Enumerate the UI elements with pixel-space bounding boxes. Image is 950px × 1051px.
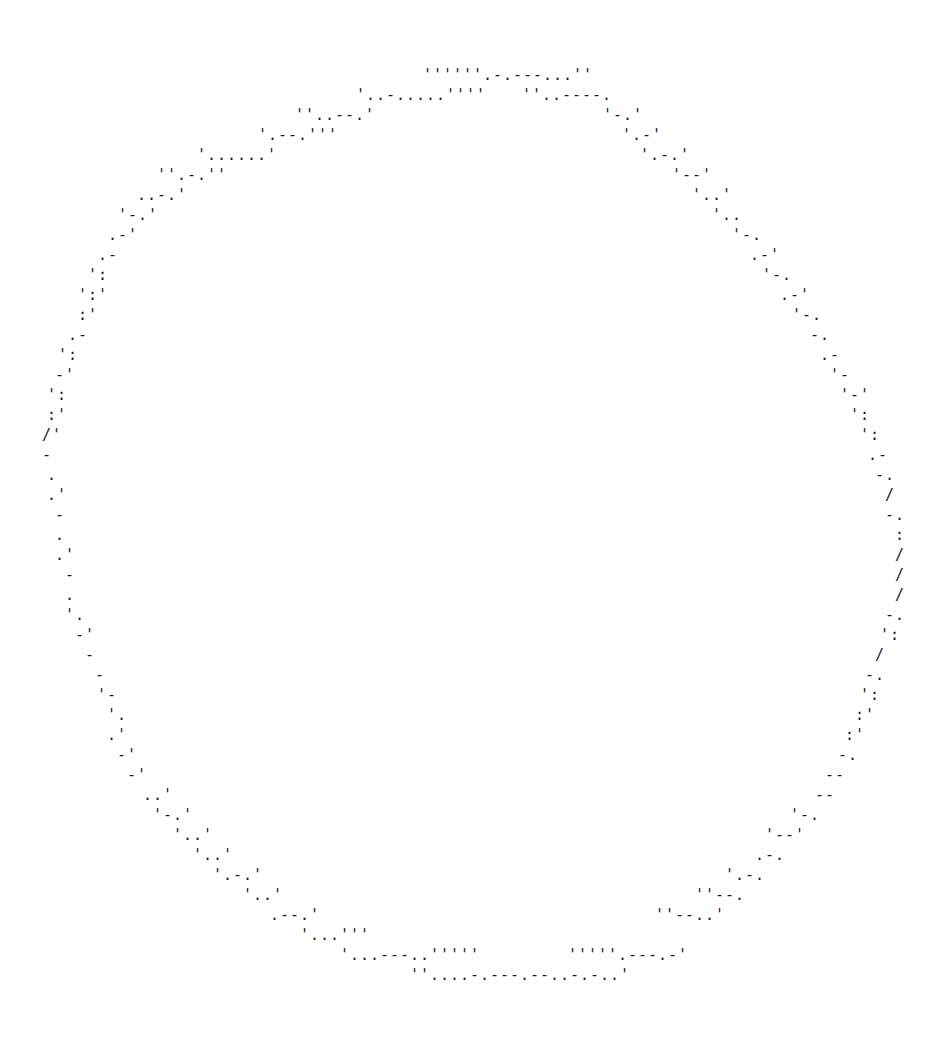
- ascii-fragment: '.-.': [213, 866, 263, 884]
- ascii-fragment: '--': [765, 826, 805, 844]
- ascii-fragment: '..': [173, 826, 213, 844]
- ascii-fragment: .': [107, 726, 127, 744]
- ascii-fragment: '..': [193, 846, 233, 864]
- ascii-fragment: '..: [712, 206, 742, 224]
- ascii-fragment: ''..----.: [522, 86, 612, 104]
- ascii-fragment: ''....-.---.--..-.-..': [410, 966, 630, 984]
- ascii-fragment: '.: [65, 606, 85, 624]
- ascii-fragment: -: [85, 646, 95, 664]
- ascii-fragment: '-: [830, 366, 850, 384]
- ascii-fragment: ':: [47, 386, 67, 404]
- ascii-fragment: '..': [243, 886, 283, 904]
- ascii-fragment: ''''''.-.---...'': [423, 66, 593, 84]
- ascii-fragment: -: [95, 666, 105, 684]
- ascii-fragment: .-: [868, 446, 888, 464]
- ascii-fragment: --: [815, 786, 835, 804]
- ascii-fragment: /: [875, 646, 885, 664]
- ascii-fragment: '-.': [118, 206, 158, 224]
- ascii-fragment: .-: [98, 246, 118, 264]
- ascii-fragment: /: [895, 566, 905, 584]
- ascii-fragment: '-.: [792, 306, 822, 324]
- ascii-fragment: '...---..''''': [340, 946, 480, 964]
- ascii-fragment: .: [65, 586, 75, 604]
- ascii-art-circle: ''''''.-.---...'''..-.....''''''..----.'…: [0, 0, 950, 1051]
- ascii-fragment: -.: [885, 606, 905, 624]
- ascii-fragment: .: [47, 466, 57, 484]
- ascii-fragment: ':: [58, 346, 78, 364]
- ascii-fragment: -': [75, 626, 95, 644]
- ascii-fragment: .: [55, 526, 65, 544]
- ascii-fragment: .-': [108, 226, 138, 244]
- ascii-fragment: -': [55, 366, 75, 384]
- ascii-fragment: -': [127, 766, 147, 784]
- ascii-fragment: /: [885, 486, 895, 504]
- ascii-fragment: .-: [68, 326, 88, 344]
- ascii-fragment: /': [42, 426, 62, 444]
- ascii-fragment: --: [825, 766, 845, 784]
- ascii-fragment: '-.: [762, 266, 792, 284]
- ascii-fragment: :': [78, 306, 98, 324]
- ascii-fragment: -.: [885, 506, 905, 524]
- ascii-fragment: -': [117, 746, 137, 764]
- ascii-fragment: -.: [810, 326, 830, 344]
- ascii-fragment: .-': [780, 286, 810, 304]
- ascii-fragment: '''''.---.-': [568, 946, 688, 964]
- ascii-fragment: -: [65, 566, 75, 584]
- ascii-fragment: .-': [750, 246, 780, 264]
- ascii-fragment: '.-': [622, 126, 662, 144]
- ascii-fragment: ':: [880, 626, 900, 644]
- ascii-fragment: ':': [78, 286, 108, 304]
- ascii-fragment: '-.': [153, 806, 193, 824]
- ascii-fragment: -.: [865, 666, 885, 684]
- ascii-fragment: /: [895, 586, 905, 604]
- ascii-fragment: '..': [692, 186, 732, 204]
- ascii-fragment: '-: [97, 686, 117, 704]
- ascii-fragment: :: [895, 526, 905, 544]
- ascii-fragment: :': [845, 726, 865, 744]
- ascii-fragment: .-.: [755, 846, 785, 864]
- ascii-fragment: ''--..': [655, 906, 725, 924]
- ascii-fragment: ':: [850, 406, 870, 424]
- ascii-fragment: -: [42, 446, 52, 464]
- ascii-fragment: '--': [672, 166, 712, 184]
- ascii-fragment: -: [55, 506, 65, 524]
- ascii-fragment: '-.: [790, 806, 820, 824]
- ascii-fragment: ':: [860, 686, 880, 704]
- ascii-fragment: '-': [840, 386, 870, 404]
- ascii-fragment: '.-.: [725, 866, 765, 884]
- ascii-fragment: ''.-.'': [157, 166, 227, 184]
- ascii-fragment: /: [895, 546, 905, 564]
- ascii-fragment: '...''': [300, 926, 370, 944]
- ascii-fragment: ..': [143, 786, 173, 804]
- ascii-fragment: '-.': [603, 106, 643, 124]
- ascii-fragment: ''..--.': [295, 106, 375, 124]
- ascii-fragment: '..-.....'''': [356, 86, 486, 104]
- ascii-fragment: .-: [820, 346, 840, 364]
- ascii-fragment: ''--.: [695, 886, 745, 904]
- ascii-fragment: :': [855, 706, 875, 724]
- ascii-fragment: .': [47, 486, 67, 504]
- ascii-fragment: -.: [875, 466, 895, 484]
- ascii-fragment: ..-.': [137, 186, 187, 204]
- ascii-fragment: '-.: [732, 226, 762, 244]
- ascii-fragment: ':: [88, 266, 108, 284]
- ascii-fragment: '.-.': [640, 146, 690, 164]
- ascii-fragment: '......': [197, 146, 277, 164]
- ascii-fragment: .--.': [270, 906, 320, 924]
- ascii-fragment: ':: [860, 426, 880, 444]
- ascii-fragment: '.--.''': [258, 126, 338, 144]
- ascii-fragment: -.: [838, 746, 858, 764]
- ascii-fragment: .': [55, 546, 75, 564]
- ascii-fragment: :': [47, 406, 67, 424]
- ascii-fragment: '.: [107, 706, 127, 724]
